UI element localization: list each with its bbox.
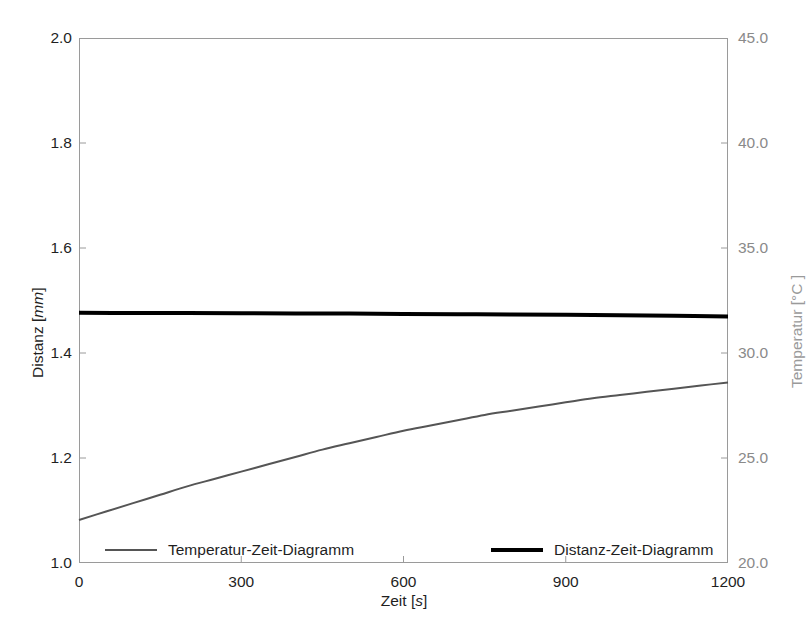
right-axis-title: Temperatur [°C ] <box>789 275 805 388</box>
legend-label: Distanz-Zeit-Diagramm <box>554 542 713 558</box>
left-tick-label: 1.2 <box>26 450 72 466</box>
left-tick-label: 1.8 <box>26 135 72 151</box>
right-tick-label: 35.0 <box>738 240 768 256</box>
x-tick-label: 0 <box>75 574 84 590</box>
legend-line-swatch <box>491 548 543 552</box>
legend-line-swatch <box>105 549 157 551</box>
left-axis-title: Distanz [mm] <box>30 288 46 378</box>
legend-entry-1[interactable]: Temperatur-Zeit-Diagramm <box>105 542 354 558</box>
x-tick-label: 900 <box>553 574 579 590</box>
left-tick-label: 2.0 <box>26 30 72 46</box>
x-tick-label: 600 <box>391 574 417 590</box>
x-axis-title: Zeit [s] <box>381 593 428 609</box>
right-tick-label: 20.0 <box>738 555 768 571</box>
right-tick-label: 30.0 <box>738 345 768 361</box>
right-tick-label: 40.0 <box>738 135 768 151</box>
right-tick-label: 25.0 <box>738 450 768 466</box>
chart-figure: 1.01.21.41.61.82.0 20.025.030.035.040.04… <box>0 0 809 628</box>
left-tick-label: 1.6 <box>26 240 72 256</box>
plot-area <box>79 38 728 563</box>
legend-label: Temperatur-Zeit-Diagramm <box>168 542 354 558</box>
x-tick-label: 300 <box>228 574 254 590</box>
x-tick-label: 1200 <box>711 574 745 590</box>
right-tick-label: 45.0 <box>738 30 768 46</box>
legend-entry-2[interactable]: Distanz-Zeit-Diagramm <box>491 542 713 558</box>
left-tick-label: 1.0 <box>26 555 72 571</box>
